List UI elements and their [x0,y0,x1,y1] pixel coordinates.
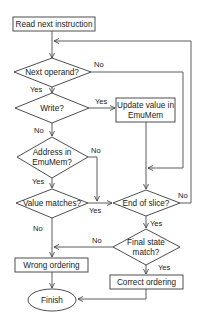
label-next-operand-yes: Yes [30,85,43,94]
label-next-operand-no: No [94,60,104,69]
node-wrong-ordering: Wrong ordering [15,258,88,272]
node-final-state-match: Final state match? [113,229,180,265]
node-write: Write? [15,93,89,123]
node-label: Write? [40,104,64,113]
node-value-matches: Value matches? [16,189,88,218]
node-label: Finish [41,296,63,305]
node-label: Value matches? [23,199,82,208]
node-update-value: Update value in EmuMem [116,98,175,122]
label-final-state-no: No [92,236,102,245]
label-value-matches-yes: Yes [89,206,102,215]
label-write-yes: Yes [95,97,108,106]
node-address-in-emumem: Address in EmuMem? [17,137,88,178]
node-label: Wrong ordering [23,261,80,270]
node-label-line2: match? [133,248,160,257]
label-end-slice-no: No [178,191,188,200]
node-label-line1: Address in [33,148,72,157]
node-label-line1: Update value in [117,101,174,110]
node-label: End of slice? [123,199,170,208]
node-label-line1: Final state [127,238,165,247]
node-next-operand: Next operand? [14,58,91,87]
label-end-slice-yes: Yes [150,219,163,228]
label-write-no: No [34,126,44,135]
node-label: Read next instruction [16,20,93,29]
edge-address-no [88,157,97,201]
node-label: Correct ordering [117,278,177,287]
node-read-next-instruction: Read next instruction [13,17,95,31]
label-value-matches-no: No [33,224,43,233]
label-address-no: No [91,146,101,155]
edge-correct-to-finish [78,289,146,299]
node-label-line2: EmuMem? [32,158,72,167]
flowchart: Read next instruction Next operand? Writ… [0,0,199,323]
node-correct-ordering: Correct ordering [110,275,183,289]
node-label: Next operand? [25,68,79,77]
label-address-yes: Yes [32,177,45,186]
node-label-line2: EmuMem [128,111,163,120]
node-end-of-slice: End of slice? [113,190,180,216]
label-final-state-yes: Yes [158,263,171,272]
node-finish: Finish [28,289,76,311]
